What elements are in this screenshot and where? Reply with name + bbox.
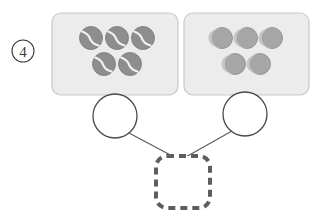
index-marker: 4: [12, 40, 34, 62]
left-node-circle[interactable]: [93, 94, 137, 138]
diagram-svg: 4: [0, 0, 329, 221]
index-number-label: 4: [19, 44, 27, 60]
node-circles: [93, 92, 267, 138]
tennis-ball[interactable]: [80, 27, 103, 50]
tennis-ball[interactable]: [119, 53, 142, 76]
tennis-ball[interactable]: [106, 27, 129, 50]
figure-canvas: 4: [0, 0, 329, 221]
tennis-ball[interactable]: [93, 53, 116, 76]
dashed-target-box[interactable]: [156, 156, 210, 208]
right-node-circle[interactable]: [223, 92, 267, 136]
right-panel-group[interactable]: [184, 13, 309, 95]
left-panel-background[interactable]: [52, 13, 178, 95]
dashed-target-box-outline[interactable]: [156, 156, 210, 208]
right-panel-background[interactable]: [184, 13, 309, 95]
tennis-ball[interactable]: [132, 27, 155, 50]
right-connector-line: [184, 131, 232, 158]
connector-lines: [129, 131, 232, 158]
left-panel-group[interactable]: [52, 13, 178, 95]
